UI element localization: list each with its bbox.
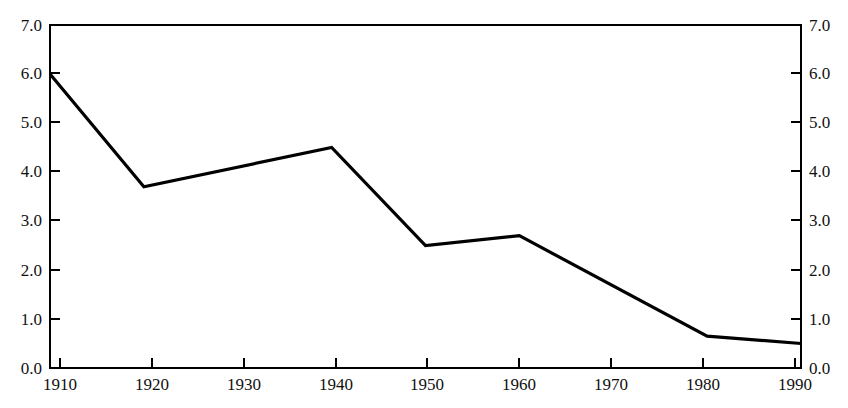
y-axis-left-label-6: 6.0 (2, 65, 42, 82)
y-axis-left-label-5: 5.0 (2, 114, 42, 131)
x-axis-label-1950: 1950 (397, 376, 457, 393)
y-axis-right-label-5: 5.0 (809, 114, 848, 131)
plot-area (0, 0, 848, 408)
y-axis-right-label-7: 7.0 (809, 17, 848, 34)
y-axis-right-label-6: 6.0 (809, 65, 848, 82)
y-axis-right-label-3: 3.0 (809, 212, 848, 229)
x-axis-label-1930: 1930 (214, 376, 274, 393)
y-axis-left-label-0: 0.0 (2, 360, 42, 377)
y-axis-left-label-3: 3.0 (2, 212, 42, 229)
line-chart-figure: 7.0 6.0 5.0 4.0 3.0 2.0 1.0 0.0 7.0 6.0 … (0, 0, 848, 408)
x-axis-label-1980: 1980 (673, 376, 733, 393)
y-axis-left-label-1: 1.0 (2, 311, 42, 328)
x-axis-label-1970: 1970 (581, 376, 641, 393)
x-axis-label-1990: 1990 (765, 376, 825, 393)
y-axis-right-label-0: 0.0 (809, 360, 848, 377)
y-axis-left-label-2: 2.0 (2, 262, 42, 279)
x-axis-label-1910: 1910 (30, 376, 90, 393)
plot-frame (50, 25, 801, 368)
y-axis-left-label-7: 7.0 (2, 17, 42, 34)
x-axis-label-1960: 1960 (489, 376, 549, 393)
y-axis-left-label-4: 4.0 (2, 163, 42, 180)
y-axis-right-label-4: 4.0 (809, 163, 848, 180)
y-axis-right-label-1: 1.0 (809, 311, 848, 328)
x-axis-label-1940: 1940 (306, 376, 366, 393)
y-axis-right-label-2: 2.0 (809, 262, 848, 279)
x-axis-label-1920: 1920 (122, 376, 182, 393)
